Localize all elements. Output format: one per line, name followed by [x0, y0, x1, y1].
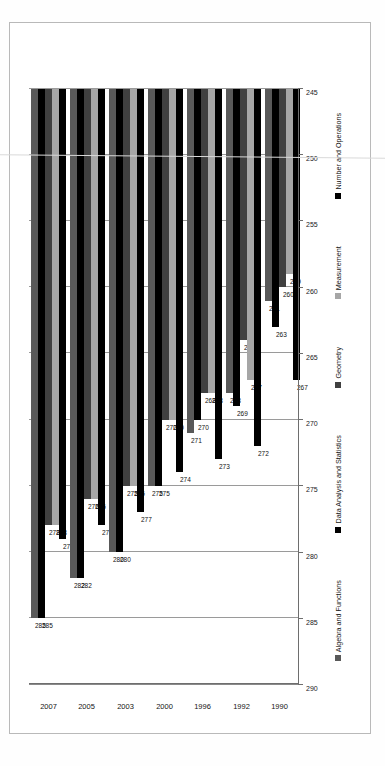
axis-tick-label: 275	[306, 486, 318, 493]
bar-row: 282	[77, 89, 84, 684]
bar-1992-3	[233, 89, 240, 406]
bar-row: 282	[70, 89, 77, 684]
value-axis: 290285280275270265260255250245	[298, 89, 299, 685]
bar-2007-1	[52, 89, 59, 525]
bar-group-2005: 282282276276278	[68, 89, 107, 684]
bar-row: 270	[169, 89, 176, 684]
bar-row: 259	[286, 89, 293, 684]
bar-row: 278	[45, 89, 52, 684]
bar-1996-2	[201, 89, 208, 393]
scanned-page: 2007200520032000199619921990 28528527827…	[0, 0, 385, 766]
bar-row: 274	[176, 89, 183, 684]
bar-2007-0	[59, 89, 66, 539]
bar-1990-4	[265, 89, 272, 301]
legend-label: Geometry	[333, 347, 342, 379]
bar-2000-3	[155, 89, 162, 486]
axis-tick	[298, 353, 303, 354]
axis-tick-label: 250	[306, 155, 318, 162]
bar-row: 280	[116, 89, 123, 684]
bar-row: 268	[201, 89, 208, 684]
bar-2005-2	[84, 89, 91, 499]
bar-group-2007: 285285278278279	[29, 89, 68, 684]
axis-tick	[298, 88, 303, 89]
bar-2003-1	[130, 89, 137, 486]
bar-row: 276	[84, 89, 91, 684]
legend-label: Algebra and Functions	[333, 580, 342, 652]
bar-2005-3	[77, 89, 84, 578]
bar-2005-1	[91, 89, 98, 499]
bar-row: 271	[187, 89, 194, 684]
chart-stage-wrapper: 2007200520032000199619921990 28528527827…	[0, 0, 385, 766]
category-label-2007: 2007	[29, 687, 68, 727]
bar-row: 268	[208, 89, 215, 684]
bar-chart: 2007200520032000199619921990 28528527827…	[13, 23, 373, 743]
bar-row: 279	[59, 89, 66, 684]
bar-2003-3	[116, 89, 123, 552]
bar-2005-4	[70, 89, 77, 578]
bar-2005-0	[98, 89, 105, 525]
legend-item-2[interactable]: Geometry	[333, 347, 342, 388]
category-axis-labels: 2007200520032000199619921990	[29, 687, 299, 727]
bar-2003-2	[123, 89, 130, 486]
bar-1990-1	[286, 89, 293, 274]
bar-row: 275	[148, 89, 155, 684]
bar-2003-0	[137, 89, 144, 512]
bar-1990-3	[272, 89, 279, 327]
legend-label: Measurement	[333, 246, 342, 290]
category-label-1990: 1990	[260, 687, 299, 727]
bar-row: 278	[52, 89, 59, 684]
bar-row: 276	[91, 89, 98, 684]
bar-group-1990: 261263260259267	[263, 89, 302, 684]
bar-1996-0	[215, 89, 222, 459]
legend-item-3[interactable]: Data Analysis and Statistics	[333, 435, 342, 532]
bar-row: 268	[226, 89, 233, 684]
axis-tick	[298, 485, 303, 486]
bar-row: 263	[272, 89, 279, 684]
axis-tick-label: 270	[306, 420, 318, 427]
bar-1992-4	[226, 89, 233, 393]
bar-2000-0	[176, 89, 183, 472]
legend-swatch-icon	[335, 655, 341, 661]
bar-1992-2	[240, 89, 247, 340]
axis-tick-label: 265	[306, 354, 318, 361]
axis-tick-label: 255	[306, 221, 318, 228]
bar-row: 275	[130, 89, 137, 684]
bar-2000-1	[169, 89, 176, 420]
legend-swatch-icon	[335, 193, 341, 199]
axis-tick	[298, 552, 303, 553]
bar-group-1992: 268269264267272	[224, 89, 263, 684]
bar-1990-2	[279, 89, 286, 287]
bar-group-2000: 275275270270274	[146, 89, 185, 684]
axis-tick-label: 245	[306, 89, 318, 96]
bar-row: 285	[31, 89, 38, 684]
legend-item-4[interactable]: Algebra and Functions	[333, 580, 342, 661]
bar-row: 270	[194, 89, 201, 684]
plot-area: 2852852782782792822822762762782802802752…	[29, 89, 299, 685]
bar-row: 269	[233, 89, 240, 684]
bar-1992-0	[254, 89, 261, 446]
bar-row: 285	[38, 89, 45, 684]
bar-row: 275	[123, 89, 130, 684]
bar-2000-2	[162, 89, 169, 420]
category-label-2003: 2003	[106, 687, 145, 727]
category-label-1992: 1992	[221, 687, 260, 727]
legend-item-0[interactable]: Number and Operations	[333, 113, 342, 199]
bar-group-1996: 271270268268273	[185, 89, 224, 684]
axis-tick	[298, 684, 303, 685]
axis-tick-label: 260	[306, 288, 318, 295]
bar-1996-3	[194, 89, 201, 420]
chart-legend: Number and OperationsMeasurementGeometry…	[325, 89, 351, 685]
bar-row: 267	[247, 89, 254, 684]
axis-tick-label: 285	[306, 619, 318, 626]
bar-2000-4	[148, 89, 155, 486]
legend-item-1[interactable]: Measurement	[333, 246, 342, 299]
legend-label: Number and Operations	[333, 113, 342, 190]
legend-swatch-icon	[335, 382, 341, 388]
bar-row: 280	[109, 89, 116, 684]
bar-row: 261	[265, 89, 272, 684]
legend-label: Data Analysis and Statistics	[333, 435, 342, 523]
bar-2007-4	[31, 89, 38, 618]
bar-group-2003: 280280275275277	[107, 89, 146, 684]
category-label-2005: 2005	[67, 687, 106, 727]
bar-1996-4	[187, 89, 194, 433]
